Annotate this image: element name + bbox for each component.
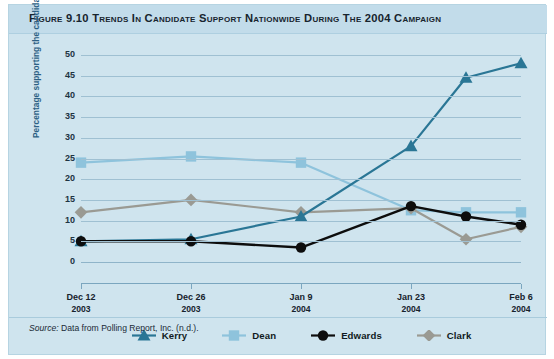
chart-area: Percentage supporting the candidate Kerr…: [9, 34, 547, 356]
x-tick-label-4: Feb 62004: [486, 292, 554, 315]
x-tick-year: 2004: [486, 304, 554, 316]
source-note: Source: Data from Polling Report, Inc. (…: [29, 323, 199, 333]
data-point-dean-1: [186, 151, 196, 161]
x-tick-year: 2004: [266, 304, 336, 316]
y-tick-label-40: 40: [53, 91, 75, 100]
x-tick-label-0: Dec 122003: [46, 292, 116, 315]
plot-region: [81, 55, 521, 262]
x-tick-date: Dec 12: [66, 292, 95, 302]
legend-label-edwards: Edwards: [341, 330, 382, 341]
x-tick-date: Jan 23: [397, 292, 425, 302]
x-tick-label-3: Jan 232004: [376, 292, 446, 315]
gridline-15: [81, 200, 521, 201]
y-tick-label-20: 20: [53, 174, 75, 183]
source-text: Data from Polling Report, Inc. (n.d.).: [59, 323, 199, 333]
y-tick-label-35: 35: [53, 112, 75, 121]
y-tick-label-15: 15: [53, 195, 75, 204]
data-point-dean-5: [516, 207, 526, 217]
x-tick-label-2: Jan 92004: [266, 292, 336, 315]
x-tick-year: 2003: [46, 304, 116, 316]
y-tick-label-0: 0: [53, 257, 75, 266]
figure-title: Figure 9.10 Trends in Candidate Support …: [29, 12, 441, 24]
gridline-5: [81, 241, 521, 242]
source-label: Source:: [29, 323, 59, 333]
data-point-clark-4: [460, 233, 473, 246]
x-tick-date: Dec 26: [176, 292, 205, 302]
x-tick-2: [301, 284, 302, 289]
x-tick-year: 2003: [156, 304, 226, 316]
y-tick-label-5: 5: [53, 236, 75, 245]
legend-label-clark: Clark: [447, 330, 472, 341]
legend-item-edwards[interactable]: Edwards: [310, 330, 382, 341]
gridline-50: [81, 55, 521, 56]
legend-item-dean[interactable]: Dean: [221, 330, 276, 341]
x-tick-date: Feb 6: [509, 292, 533, 302]
y-tick-label-30: 30: [53, 133, 75, 142]
legend-label-dean: Dean: [252, 330, 276, 341]
data-point-edwards-3: [406, 201, 416, 211]
x-tick-0: [81, 284, 82, 289]
legend-marker-circle-icon: [310, 330, 336, 341]
x-tick-label-1: Dec 262003: [156, 292, 226, 315]
y-tick-label-45: 45: [53, 71, 75, 80]
legend-marker-diamond-icon: [416, 330, 442, 341]
gridline-20: [81, 179, 521, 180]
gridline-45: [81, 76, 521, 77]
y-tick-label-50: 50: [53, 50, 75, 59]
x-tick-3: [411, 284, 412, 289]
data-point-clark-0: [75, 206, 88, 219]
legend-item-clark[interactable]: Clark: [416, 330, 472, 341]
legend-marker-square-icon: [221, 330, 247, 341]
data-point-edwards-2: [296, 242, 306, 252]
gridline-25: [81, 159, 521, 160]
source-divider: [9, 317, 547, 318]
series-kerry: [75, 57, 528, 247]
gridline-10: [81, 221, 521, 222]
y-tick-label-10: 10: [53, 216, 75, 225]
data-point-kerry-5: [515, 57, 528, 69]
gridline-40: [81, 96, 521, 97]
figure-container: Figure 9.10 Trends in Candidate Support …: [8, 4, 546, 355]
figure-title-bar: Figure 9.10 Trends in Candidate Support …: [9, 5, 547, 34]
y-tick-label-25: 25: [53, 154, 75, 163]
x-tick-4: [521, 284, 522, 289]
x-tick-year: 2004: [376, 304, 446, 316]
gridline-30: [81, 138, 521, 139]
gridline-0: [81, 262, 521, 263]
x-tick-1: [191, 284, 192, 289]
gridline-35: [81, 117, 521, 118]
y-axis-label: Percentage supporting the candidate: [31, 0, 41, 138]
x-tick-date: Jan 9: [289, 292, 312, 302]
